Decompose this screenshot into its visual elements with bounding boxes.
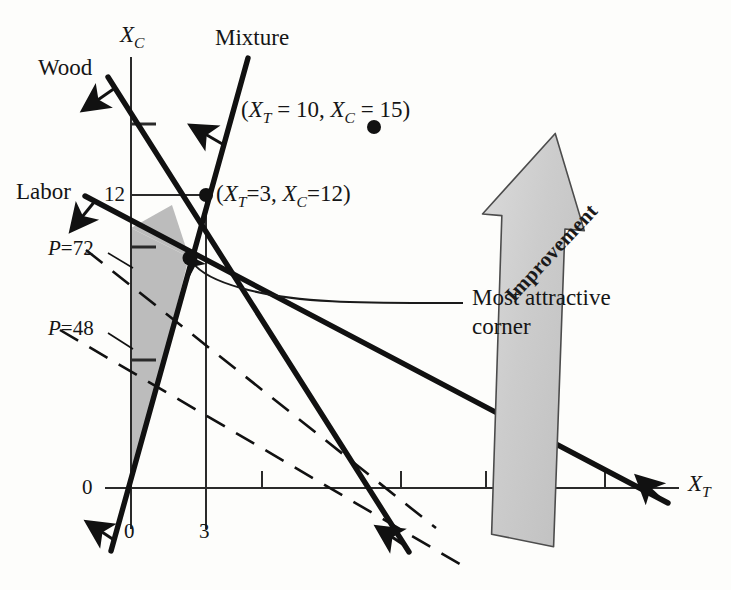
x-axis-label: XT [688,472,711,499]
point-label-xt3-xc12: (XT=3, XC=12) [216,182,351,209]
linear-programming-figure: XC XT Wood Mixture Labor 12 0 0 3 P=72 P… [0,0,731,590]
y-tick-label-12: 12 [104,184,125,205]
point-xt3-xc12 [199,188,213,202]
constraint-label-labor: Labor [16,180,71,203]
origin-label-y: 0 [82,477,93,498]
point-label-xt10-xc15: (XT = 10, XC = 15) [241,98,410,125]
origin-label-x: 0 [124,521,135,542]
isoprofit-label-p72: P=72 [48,238,94,259]
improvement-arrow [444,131,622,554]
x-tick-label-3: 3 [199,521,210,542]
y-axis-label: XC [120,23,144,50]
wood-direction-arrow [92,88,115,104]
constraint-line-labor [85,196,668,503]
p72-leader [108,253,133,268]
mixture-direction-arrow [200,131,224,145]
figure-canvas [0,0,731,590]
labor-direction-arrow [78,201,95,222]
p48-leader [108,333,133,349]
mixture-end-arrow [96,528,114,540]
constraint-label-wood: Wood [38,56,92,79]
isoprofit-label-p48: P=48 [48,318,94,339]
point-most-attractive-corner [183,251,198,266]
most-attractive-corner-label-line1: Most attractive [472,286,611,309]
most-attractive-corner-label-line2: corner [472,315,531,338]
constraint-label-mixture: Mixture [215,26,289,49]
most-attractive-corner-leader [192,262,463,303]
